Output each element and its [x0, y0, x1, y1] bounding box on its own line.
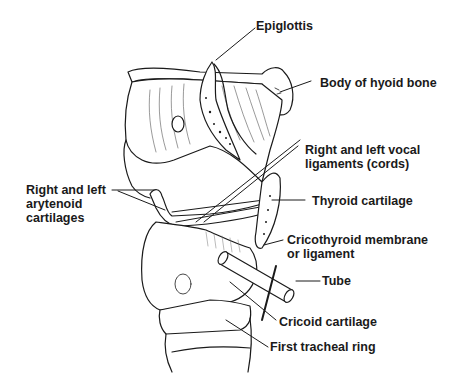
- label-line: arytenoid: [26, 197, 106, 211]
- label-hyoid-bone: Body of hyoid bone: [320, 76, 437, 90]
- label-thyroid-cartilage: Thyroid cartilage: [312, 194, 413, 208]
- label-line: ligaments (cords): [305, 157, 420, 171]
- label-cricoid-cartilage: Cricoid cartilage: [279, 315, 377, 329]
- label-line: or ligament: [287, 247, 428, 261]
- label-line: Cricothyroid membrane: [287, 233, 428, 247]
- label-line: Tube: [322, 274, 351, 288]
- larynx-diagram: Epiglottis Body of hyoid bone Right and …: [0, 0, 466, 375]
- label-epiglottis: Epiglottis: [256, 19, 313, 33]
- label-line: Epiglottis: [256, 19, 313, 33]
- label-vocal-ligaments: Right and left vocal ligaments (cords): [305, 143, 420, 171]
- label-first-tracheal-ring: First tracheal ring: [270, 340, 376, 354]
- label-line: Right and left vocal: [305, 143, 420, 157]
- label-cricothyroid-membrane: Cricothyroid membrane or ligament: [287, 233, 428, 261]
- label-line: cartilages: [26, 211, 106, 225]
- label-line: Cricoid cartilage: [279, 315, 377, 329]
- label-arytenoid-cartilages: Right and left arytenoid cartilages: [26, 183, 106, 225]
- leader-epiglottis: [216, 28, 255, 60]
- label-tube: Tube: [322, 274, 351, 288]
- label-line: First tracheal ring: [270, 340, 376, 354]
- label-line: Right and left: [26, 183, 106, 197]
- label-line: Thyroid cartilage: [312, 194, 413, 208]
- label-line: Body of hyoid bone: [320, 76, 437, 90]
